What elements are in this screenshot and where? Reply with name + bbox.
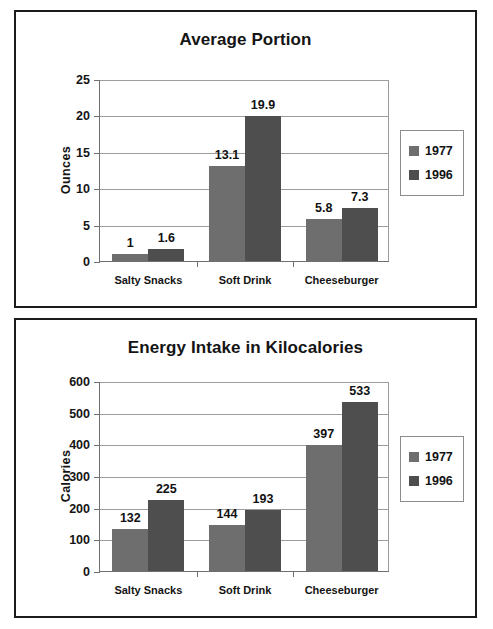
bar-1996-cheeseburger xyxy=(342,402,378,571)
legend: 1977 1996 xyxy=(400,130,464,196)
bar-value-label: 7.3 xyxy=(351,190,368,204)
y-axis-tick xyxy=(94,226,100,227)
bar-1977-salty-snacks xyxy=(112,254,148,261)
y-axis-tick-label: 200 xyxy=(69,502,90,516)
legend-swatch-icon-1977 xyxy=(409,146,419,156)
y-axis-tick-label: 500 xyxy=(69,407,90,421)
chart-title: Average Portion xyxy=(16,30,475,50)
bar-value-label: 225 xyxy=(156,482,177,496)
y-axis-tick-label: 300 xyxy=(69,470,90,484)
bar-value-label: 193 xyxy=(253,492,274,506)
legend-swatch-icon-1996 xyxy=(409,476,419,486)
chart-title: Energy Intake in Kilocalories xyxy=(16,338,475,358)
y-axis-tick-label: 0 xyxy=(83,255,90,269)
bar-value-label: 397 xyxy=(313,427,334,441)
y-axis-tick-label: 400 xyxy=(69,438,90,452)
legend-label-1996: 1996 xyxy=(425,169,453,182)
figure-sheet: Average Portion Ounces 051015202511.6Sal… xyxy=(0,0,493,629)
legend-label-1996: 1996 xyxy=(425,475,453,488)
y-axis-tick xyxy=(94,540,100,541)
x-axis-category-label: Salty Snacks xyxy=(114,584,182,596)
y-axis-tick-label: 10 xyxy=(76,182,90,196)
y-axis-tick xyxy=(94,445,100,446)
legend-item-1977[interactable]: 1977 xyxy=(409,445,454,469)
y-axis-title: Ounces xyxy=(59,140,73,200)
bar-1996-salty-snacks xyxy=(148,500,184,571)
y-axis-tick-label: 15 xyxy=(76,146,90,160)
y-axis-tick xyxy=(94,477,100,478)
y-axis-tick-label: 600 xyxy=(69,375,90,389)
legend-label-1977: 1977 xyxy=(425,451,453,464)
x-axis-tick xyxy=(293,571,294,577)
gridline xyxy=(100,382,389,383)
x-axis-category-label: Salty Snacks xyxy=(114,274,182,286)
y-axis-tick xyxy=(94,382,100,383)
y-axis-tick xyxy=(94,572,100,573)
legend-label-1977: 1977 xyxy=(425,145,453,158)
x-axis-tick xyxy=(197,571,198,577)
x-axis-category-label: Soft Drink xyxy=(219,584,272,596)
bar-1977-cheeseburger xyxy=(306,445,342,571)
legend: 1977 1996 xyxy=(400,436,464,502)
bar-1996-soft-drink xyxy=(245,116,281,261)
y-axis-tick xyxy=(94,116,100,117)
y-axis-tick-label: 20 xyxy=(76,109,90,123)
plot-area: 051015202511.6Salty Snacks13.119.9Soft D… xyxy=(99,80,389,262)
x-axis-tick xyxy=(197,261,198,267)
x-axis-tick xyxy=(293,261,294,267)
bar-value-label: 5.8 xyxy=(315,201,332,215)
y-axis-tick xyxy=(94,414,100,415)
bar-1996-soft-drink xyxy=(245,510,281,571)
legend-swatch-icon-1996 xyxy=(409,170,419,180)
y-axis-tick xyxy=(94,189,100,190)
y-axis-tick xyxy=(94,509,100,510)
bar-1977-soft-drink xyxy=(209,166,245,261)
chart-panel-average-portion: Average Portion Ounces 051015202511.6Sal… xyxy=(14,10,477,308)
bar-value-label: 19.9 xyxy=(251,98,275,112)
bar-1996-salty-snacks xyxy=(148,249,184,261)
y-axis-tick xyxy=(94,80,100,81)
legend-item-1996[interactable]: 1996 xyxy=(409,469,454,493)
plot-area: 0100200300400500600132225Salty Snacks144… xyxy=(99,382,389,572)
legend-swatch-icon-1977 xyxy=(409,452,419,462)
bar-1977-cheeseburger xyxy=(306,219,342,261)
legend-item-1996[interactable]: 1996 xyxy=(409,163,454,187)
bar-value-label: 13.1 xyxy=(215,148,239,162)
y-axis-tick xyxy=(94,153,100,154)
x-axis-category-label: Cheeseburger xyxy=(305,584,379,596)
bar-1977-salty-snacks xyxy=(112,529,148,571)
gridline xyxy=(100,80,389,81)
y-axis-tick-label: 5 xyxy=(83,219,90,233)
y-axis-tick-label: 100 xyxy=(69,533,90,547)
bar-value-label: 1.6 xyxy=(158,231,175,245)
bar-value-label: 533 xyxy=(349,384,370,398)
y-axis-tick-label: 0 xyxy=(83,565,90,579)
y-axis-tick-label: 25 xyxy=(76,73,90,87)
bar-1977-soft-drink xyxy=(209,525,245,571)
chart-panel-energy-intake: Energy Intake in Kilocalories Calories 0… xyxy=(14,318,477,618)
x-axis-category-label: Cheeseburger xyxy=(305,274,379,286)
x-axis-category-label: Soft Drink xyxy=(219,274,272,286)
bar-value-label: 144 xyxy=(217,507,238,521)
bar-1996-cheeseburger xyxy=(342,208,378,261)
legend-item-1977[interactable]: 1977 xyxy=(409,139,454,163)
bar-value-label: 132 xyxy=(120,511,141,525)
y-axis-tick xyxy=(94,262,100,263)
bar-value-label: 1 xyxy=(127,236,134,250)
